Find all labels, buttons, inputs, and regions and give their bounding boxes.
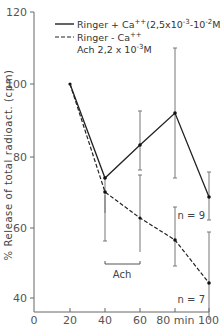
ach-bracket: [105, 261, 140, 264]
legend-label-ach: Ach 2,2 x 10-3M: [77, 43, 152, 55]
ach-label: Ach: [113, 269, 132, 280]
legend-label-ringer-ca: Ringer + Ca++(2,5x10-3-10-2M): [77, 18, 221, 30]
n-label-solid: n = 9: [178, 210, 205, 221]
error-bars-solid: [103, 48, 211, 220]
x-tick-40: 40: [98, 314, 112, 326]
release-chart: 120 100 80 60 40 0 20 40 60 80 min 100 %…: [0, 0, 221, 326]
legend: Ringer + Ca++(2,5x10-3-10-2M) Ringer - C…: [55, 18, 221, 55]
y-axis: [30, 12, 34, 312]
n-label-dashed: n = 7: [178, 294, 205, 305]
y-tick-40: 40: [13, 292, 27, 305]
y-axis-label: % Release of total radioact. (cpm): [3, 70, 14, 261]
x-tick-60: 60: [133, 314, 147, 326]
y-tick-80: 80: [13, 151, 27, 164]
x-axis: [34, 308, 209, 312]
x-tick-80-min-100: 80 min 100: [156, 314, 219, 326]
legend-label-ringer-no-ca: Ringer - Ca++: [77, 31, 142, 43]
y-tick-120: 120: [6, 6, 27, 19]
x-tick-0: 0: [31, 314, 38, 326]
x-tick-20: 20: [63, 314, 77, 326]
y-tick-60: 60: [13, 222, 27, 235]
